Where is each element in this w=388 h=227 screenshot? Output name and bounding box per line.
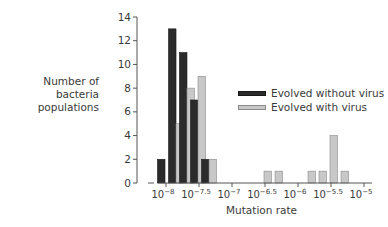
x-tick-label: 10−5.5 — [313, 188, 343, 200]
y-tick-label: 0 — [124, 177, 131, 189]
x-tick-label: 10−7 — [217, 188, 240, 200]
x-tick-label: 10−8 — [151, 188, 174, 200]
x-tick-label: 10−7.5 — [181, 188, 211, 200]
legend: Evolved without virus Evolved with virus — [238, 86, 384, 114]
y-tick-label: 14 — [118, 11, 132, 23]
y-axis: 02468101214 — [118, 11, 137, 189]
x-tick-label: 10−6 — [283, 188, 307, 200]
y-tick-label: 12 — [118, 34, 131, 46]
legend-label: Evolved with virus — [271, 100, 367, 114]
bar-with-virus — [308, 171, 316, 183]
y-tick-label: 2 — [124, 153, 131, 165]
x-tick-label: 10−6.5 — [247, 188, 277, 200]
y-tick-label: 10 — [118, 58, 131, 70]
bar-without-virus — [179, 53, 187, 183]
legend-item-with-virus: Evolved with virus — [238, 100, 384, 114]
bar-without-virus — [191, 100, 199, 183]
x-axis-label: Mutation rate — [226, 204, 297, 216]
bar-without-virus — [158, 159, 166, 183]
bar-with-virus — [341, 171, 349, 183]
bar-with-virus — [319, 171, 327, 183]
y-tick-label: 4 — [124, 129, 131, 141]
bar-with-virus — [330, 136, 338, 183]
bar-without-virus — [169, 29, 177, 183]
y-tick-label: 8 — [124, 82, 131, 94]
legend-swatch-light — [238, 105, 266, 110]
legend-swatch-dark — [238, 91, 266, 96]
bar-without-virus — [202, 159, 210, 183]
legend-item-without-virus: Evolved without virus — [238, 86, 384, 100]
bar-with-virus — [264, 171, 272, 183]
x-axis: 10−810−7.510−710−6.510−610−5.510−5 — [148, 183, 373, 200]
bar-with-virus — [209, 159, 217, 183]
legend-label: Evolved without virus — [271, 86, 384, 100]
x-tick-label: 10−5 — [349, 188, 372, 200]
y-tick-label: 6 — [124, 105, 131, 117]
bar-with-virus — [275, 171, 283, 183]
